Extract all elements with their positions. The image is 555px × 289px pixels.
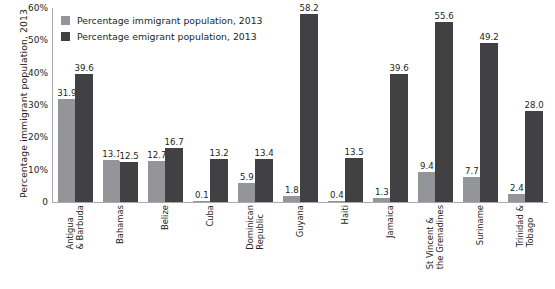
x-category-label-text: Belize [161, 205, 171, 230]
bar-group: 7.749.2 [463, 8, 497, 202]
x-category-label: Haiti [323, 205, 368, 283]
bar-value-label: 58.2 [299, 3, 319, 13]
y-tick-label: 50% [28, 35, 48, 45]
bar-value-label: 5.9 [240, 172, 255, 182]
bar: 7.7 [463, 177, 480, 202]
bar: 55.6 [435, 22, 452, 202]
bar: 2.4 [508, 194, 525, 202]
bar: 0.1 [193, 201, 210, 202]
bar-value-label: 12.7 [147, 150, 167, 160]
bar-value-label: 55.6 [434, 11, 454, 21]
bar: 13.1 [103, 160, 120, 202]
y-axis-title: Percentage immigrant population, 2013 [18, 4, 29, 204]
bar: 16.7 [165, 148, 182, 202]
legend-item[interactable]: Percentage immigrant population, 2013 [61, 12, 263, 28]
legend-label: Percentage emigrant population, 2013 [77, 31, 257, 42]
y-tick-label: 10% [28, 165, 48, 175]
bar: 31.9 [58, 99, 75, 202]
x-category-label: Cuba [188, 205, 233, 283]
bar: 0.4 [328, 201, 345, 202]
bar: 5.9 [238, 183, 255, 202]
bar-value-label: 16.7 [164, 137, 184, 147]
bar-value-label: 9.4 [420, 161, 435, 171]
x-category-label: Guyana [278, 205, 323, 283]
x-category-label-text: Antigua& Barbuda [66, 205, 85, 250]
bar-group: 1.339.6 [373, 8, 407, 202]
bar: 28.0 [525, 111, 542, 202]
bar: 39.6 [75, 74, 92, 202]
bar: 13.5 [345, 158, 362, 202]
x-category-label-text: St Vincent &the Grenadines [426, 205, 445, 269]
bar-group: 2.428.0 [508, 8, 542, 202]
x-axis-category-labels: Antigua& BarbudaBahamasBelizeCubaDominic… [53, 205, 548, 283]
x-category-label: Bahamas [98, 205, 143, 283]
bar: 58.2 [300, 14, 317, 202]
bar-value-label: 0.4 [330, 190, 345, 200]
bar-value-label: 1.8 [285, 185, 300, 195]
chart-legend: Percentage immigrant population, 2013Per… [61, 12, 263, 44]
bar-value-label: 13.5 [344, 147, 364, 157]
bar-value-label: 2.4 [510, 183, 525, 193]
x-category-label-text: Trinidad &Tobago [516, 205, 535, 247]
bar: 9.4 [418, 172, 435, 202]
x-category-label: Suriname [458, 205, 503, 283]
bar-value-label: 12.5 [119, 151, 139, 161]
y-tick-label: 30% [28, 100, 48, 110]
x-category-label-text: Bahamas [116, 205, 126, 244]
bar-group: 1.858.2 [283, 8, 317, 202]
bar-value-label: 13.4 [254, 148, 274, 158]
legend-label: Percentage immigrant population, 2013 [77, 15, 263, 26]
x-category-label: St Vincent &the Grenadines [413, 205, 458, 283]
bar-value-label: 28.0 [524, 100, 544, 110]
bar-value-label: 31.9 [57, 88, 77, 98]
y-tick-label: 40% [28, 68, 48, 78]
x-category-label: Trinidad &Tobago [503, 205, 548, 283]
bar-group: 0.413.5 [328, 8, 362, 202]
legend-item[interactable]: Percentage emigrant population, 2013 [61, 28, 263, 44]
bar: 12.5 [120, 162, 137, 202]
x-category-label-text: Cuba [206, 205, 216, 227]
x-category-label-text: Haiti [341, 205, 351, 224]
x-category-label-text: Jamaica [386, 205, 396, 238]
x-category-label-text: DominicanRepublic [246, 205, 265, 250]
bar-value-label: 1.3 [375, 187, 390, 197]
x-category-label-text: Guyana [296, 205, 306, 237]
bar-value-label: 49.2 [479, 32, 499, 42]
bar-value-label: 39.6 [389, 63, 409, 73]
bar: 1.8 [283, 196, 300, 202]
bar: 12.7 [148, 161, 165, 202]
legend-swatch-icon [61, 16, 70, 25]
x-category-label: Jamaica [368, 205, 413, 283]
bar-value-label: 7.7 [465, 166, 480, 176]
bar: 13.4 [255, 159, 272, 202]
x-category-label: Belize [143, 205, 188, 283]
y-tick-label: 20% [28, 132, 48, 142]
bar-value-label: 39.6 [74, 63, 94, 73]
x-axis-line [52, 202, 548, 203]
bar: 39.6 [390, 74, 407, 202]
legend-swatch-icon [61, 32, 70, 41]
bar: 13.2 [210, 159, 227, 202]
x-category-label: Antigua& Barbuda [53, 205, 98, 283]
bar: 49.2 [480, 43, 497, 202]
bar: 1.3 [373, 198, 390, 202]
x-category-label-text: Suriname [476, 205, 486, 245]
y-tick-label: 60% [28, 3, 48, 13]
x-category-label: DominicanRepublic [233, 205, 278, 283]
bar-chart-figure: Percentage immigrant population, 2013 01… [0, 0, 555, 289]
bar-value-label: 0.1 [195, 190, 210, 200]
y-tick-label: 0 [42, 197, 48, 207]
bar-group: 9.455.6 [418, 8, 452, 202]
bar-value-label: 13.2 [209, 148, 229, 158]
